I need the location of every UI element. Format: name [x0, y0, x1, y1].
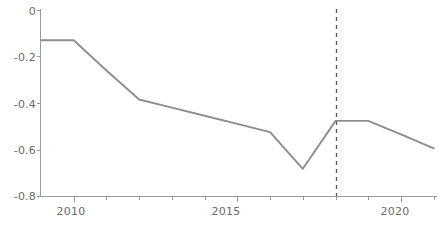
axes: [41, 9, 438, 197]
plot-area: [0, 0, 438, 226]
line-chart: 0 -0.2 -0.4 -0.6 -0.8 2010 2015 2020: [0, 0, 438, 226]
series-layer: [41, 40, 434, 169]
data-line-series-1: [41, 40, 434, 169]
